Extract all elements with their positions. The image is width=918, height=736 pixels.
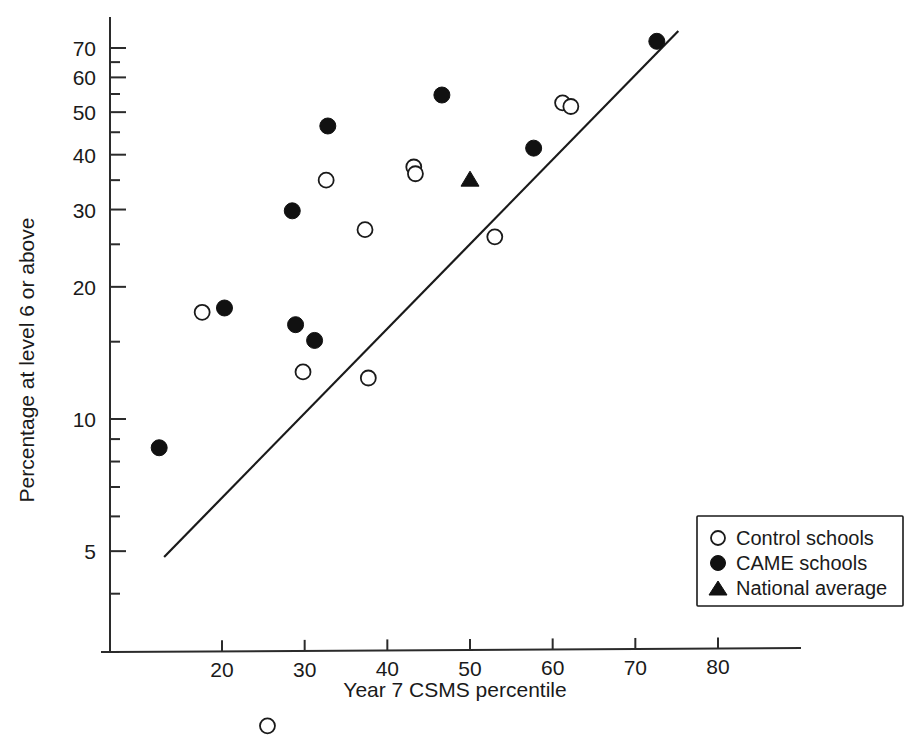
x-axis-line	[110, 648, 800, 652]
x-tick-label-60: 60	[541, 656, 564, 679]
data-point-came-schools-4	[307, 332, 323, 348]
x-tick-label-40: 40	[376, 657, 399, 680]
data-point-control-schools-4	[358, 222, 373, 237]
y-tick-label-30: 30	[73, 199, 96, 222]
series-national-average	[461, 171, 479, 186]
chart-legend: Control schools CAME schools National av…	[697, 516, 903, 606]
x-tick-label-50: 50	[458, 657, 481, 680]
y-tick-label-40: 40	[73, 144, 96, 167]
legend-label-national-average: National average	[736, 577, 887, 599]
legend-marker-filled-circle-icon	[711, 556, 726, 571]
y-tick-label-50: 50	[73, 101, 96, 124]
data-point-control-schools-10	[563, 99, 578, 114]
data-point-control-schools-3	[319, 173, 334, 188]
data-point-control-schools-8	[487, 229, 502, 244]
data-point-came-schools-2	[284, 203, 300, 219]
data-point-control-schools-1	[260, 718, 275, 733]
legend-label-came-schools: CAME schools	[736, 552, 867, 574]
scatter-plot-svg: 510203040506070 20304050607080 Year 7 CS…	[0, 0, 918, 736]
x-axis-title: Year 7 CSMS percentile	[343, 678, 566, 701]
y-axis-tick-labels: 510203040506070	[73, 37, 96, 563]
legend-marker-open-circle-icon	[711, 531, 725, 545]
y-tick-label-10: 10	[73, 408, 96, 431]
y-tick-label-70: 70	[73, 37, 96, 60]
data-point-control-schools-5	[361, 370, 376, 385]
y-tick-label-5: 5	[84, 540, 96, 563]
series-came-schools	[151, 33, 665, 455]
y-tick-label-60: 60	[73, 66, 96, 89]
data-point-came-schools-6	[434, 87, 450, 103]
x-tick-label-30: 30	[293, 658, 316, 681]
chart-figure: 510203040506070 20304050607080 Year 7 CS…	[0, 0, 918, 736]
x-tick-label-80: 80	[706, 655, 729, 678]
x-tick-label-70: 70	[624, 656, 647, 679]
y-tick-label-20: 20	[73, 276, 96, 299]
y-axis-ticks	[110, 48, 126, 594]
data-point-control-schools-7	[408, 166, 423, 181]
data-point-came-schools-0	[151, 440, 167, 456]
trendline-group	[164, 31, 678, 557]
data-point-came-schools-1	[216, 300, 232, 316]
data-point-came-schools-8	[649, 33, 665, 49]
y-axis-title: Percentage at level 6 or above	[15, 218, 38, 503]
data-point-came-schools-5	[320, 118, 336, 134]
data-point-national-average-0	[461, 171, 479, 186]
data-point-came-schools-3	[288, 317, 304, 333]
regression-trendline	[164, 31, 678, 557]
data-point-control-schools-2	[296, 364, 311, 379]
data-point-came-schools-7	[526, 140, 542, 156]
legend-label-control-schools: Control schools	[736, 527, 874, 549]
x-tick-label-20: 20	[210, 658, 233, 681]
data-point-control-schools-0	[195, 305, 210, 320]
